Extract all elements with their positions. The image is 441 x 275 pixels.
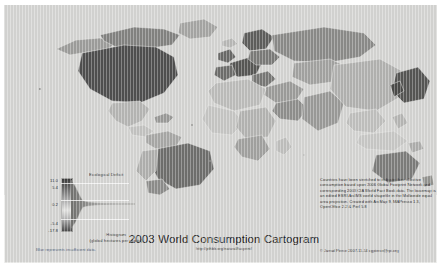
tick-value: 11.0 [50,178,58,183]
world-cartogram-map [4,5,437,195]
page-title: 2003 World Consumption Cartogram [124,233,324,245]
methodology-note: Countries have been stretched to indicat… [320,177,437,209]
ecological-deficit-label: Ecological Deficit [89,172,123,177]
histogram-label: Histogram [106,232,126,237]
poster-paper: Ecological Deficit 11.0 5.4 0.2 -5.4 -17… [4,5,437,263]
cartogram-svg [4,5,437,195]
methodology-text: Countries have been stretched to indicat… [320,177,437,209]
copyright-credit: © Jarrad Pierce 2007-11-14 cgpierce@rpi.… [320,248,437,253]
title-block: 2003 World Consumption Cartogram http://… [124,233,324,251]
tick-rule [61,219,129,220]
tick-value: -5.4 [51,221,58,226]
tick-rule [61,200,129,201]
tick-value: 5.4 [52,185,58,190]
histogram-violin [71,178,139,230]
tick-rule [61,183,129,184]
cartogram-poster: Ecological Deficit 11.0 5.4 0.2 -5.4 -17… [0,0,441,275]
source-url[interactable]: http://pthbb.org/natural/fucprint/ [124,246,324,251]
tick-value: 0.2 [52,202,58,207]
